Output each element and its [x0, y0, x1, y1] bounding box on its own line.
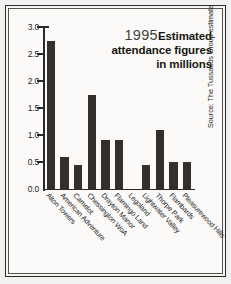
bar	[74, 165, 82, 189]
y-axis-tick-label: 1.0	[28, 130, 39, 140]
bar	[115, 140, 123, 189]
bar	[142, 165, 150, 189]
bar	[47, 41, 55, 190]
bar	[183, 162, 191, 189]
y-axis-tick-label: 2.0	[28, 76, 39, 86]
y-axis-tick-label: 2.5	[28, 49, 39, 59]
bar	[169, 162, 177, 189]
title-line-2: attendance figures	[104, 43, 212, 57]
y-axis-tick-label: 0.0	[28, 184, 39, 194]
bar	[88, 95, 96, 190]
chart-figure: 3.02.52.01.51.00.50.0 1995Estimated atte…	[0, 0, 231, 284]
title-estimated: Estimated	[158, 30, 212, 42]
y-axis-tick-label: 1.5	[28, 103, 39, 113]
bar	[60, 157, 68, 189]
bar	[156, 130, 164, 189]
title-line-3: in millions	[104, 57, 212, 71]
bar	[101, 140, 109, 189]
source-note: Source: The Tussauds Group estimate	[206, 5, 215, 128]
chart-title: 1995Estimated attendance figures in mill…	[104, 28, 212, 71]
y-axis-tick-label: 3.0	[28, 22, 39, 32]
x-axis-category-labels: Alton TowersAmerican AdventureCamelotChe…	[44, 191, 209, 271]
x-axis-baseline	[43, 189, 195, 190]
y-axis-tick-label: 0.5	[28, 157, 39, 167]
title-year: 1995	[124, 27, 157, 43]
